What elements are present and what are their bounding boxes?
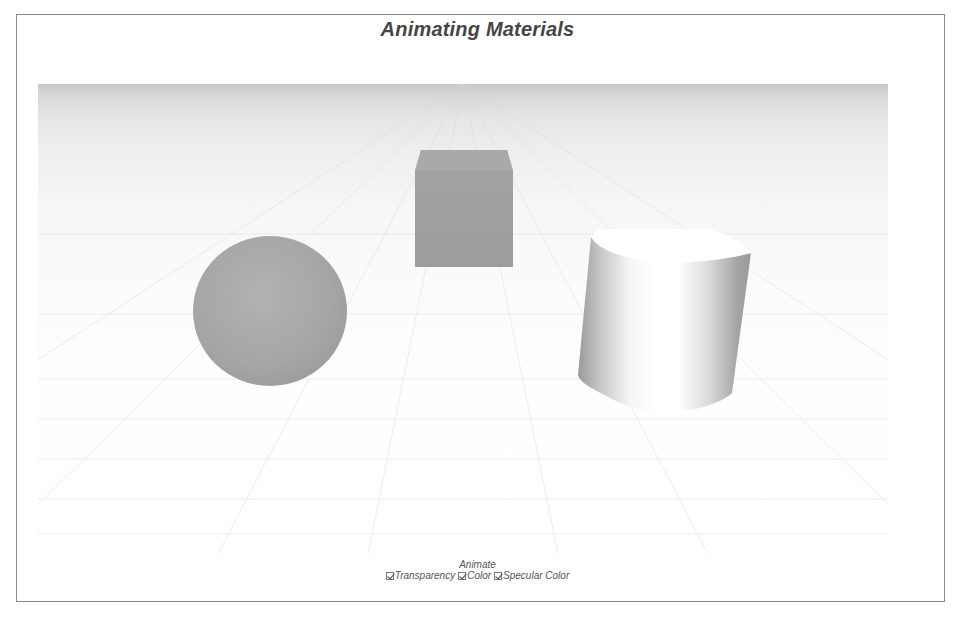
transparency-checkbox[interactable]: Transparency (386, 570, 455, 581)
checkbox-checked-icon[interactable] (494, 572, 502, 580)
3d-viewport[interactable] (38, 84, 888, 554)
color-checkbox[interactable]: Color (458, 570, 491, 581)
animate-group-label: Animate (0, 559, 955, 570)
cylinder-object[interactable] (568, 229, 768, 419)
specular-color-label: Specular Color (503, 570, 569, 581)
checkbox-checked-icon[interactable] (458, 572, 466, 580)
cube-top-face (415, 150, 513, 170)
animate-controls: Animate Transparency Color Specular Colo… (0, 559, 955, 581)
sphere-object[interactable] (193, 236, 347, 386)
checkbox-checked-icon[interactable] (386, 572, 394, 580)
color-label: Color (467, 570, 491, 581)
specular-color-checkbox[interactable]: Specular Color (494, 570, 569, 581)
transparency-label: Transparency (395, 570, 455, 581)
page-title: Animating Materials (0, 18, 955, 41)
cube-front-face (415, 170, 513, 267)
